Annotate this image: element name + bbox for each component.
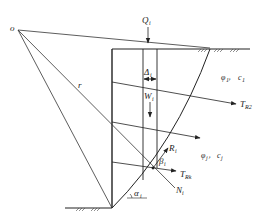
svg-text:i: i (152, 96, 154, 102)
svg-text:，: ， (228, 75, 234, 81)
diagram-svg: o r Q i Δ i W i T R2 T Rk R i β i α i N … (0, 0, 255, 220)
normal-label: N i (175, 185, 184, 196)
svg-text:i: i (182, 190, 184, 196)
ground-surface-bottom (65, 208, 112, 211)
load-label: Q i (142, 15, 151, 26)
ground-surface-top (112, 49, 250, 52)
slope-stability-diagram: o r Q i Δ i W i T R2 T Rk R i β i α i N … (0, 0, 255, 220)
svg-text:i: i (175, 148, 177, 154)
svg-text:i: i (164, 161, 166, 167)
center-label: o (10, 23, 15, 33)
anchor-line-2 (112, 82, 236, 104)
anchor-force-k-label: T Rk (180, 169, 192, 180)
slip-surface-arc (112, 49, 210, 208)
slice-base-point (152, 167, 155, 170)
svg-text:Rk: Rk (184, 174, 192, 180)
anchor-line-k (112, 162, 176, 171)
soil-layer-1-params: φ 1 ， c 1 (221, 73, 245, 83)
svg-text:α: α (134, 188, 139, 198)
svg-text:R: R (168, 143, 175, 153)
soil-layer-j-params: φ j ， c j (201, 151, 223, 161)
svg-text:Δ: Δ (143, 67, 149, 77)
svg-text:R2: R2 (244, 104, 252, 110)
svg-text:1: 1 (242, 77, 245, 83)
svg-text:Q: Q (142, 15, 149, 25)
radius-lines (18, 30, 210, 208)
anchor-force-2-label: T R2 (240, 99, 252, 110)
slice-width-label: Δ i (143, 67, 152, 78)
alpha-label: α i (134, 188, 142, 199)
beta-label: β i (158, 156, 166, 167)
svg-text:j: j (220, 155, 223, 161)
radius-label: r (78, 80, 82, 90)
svg-text:，: ， (208, 153, 214, 159)
anchor-line-mid (112, 122, 200, 138)
weight-label: W i (144, 91, 154, 102)
resultant-label: R i (168, 143, 177, 154)
svg-text:i: i (150, 72, 152, 78)
svg-text:i: i (149, 20, 151, 26)
